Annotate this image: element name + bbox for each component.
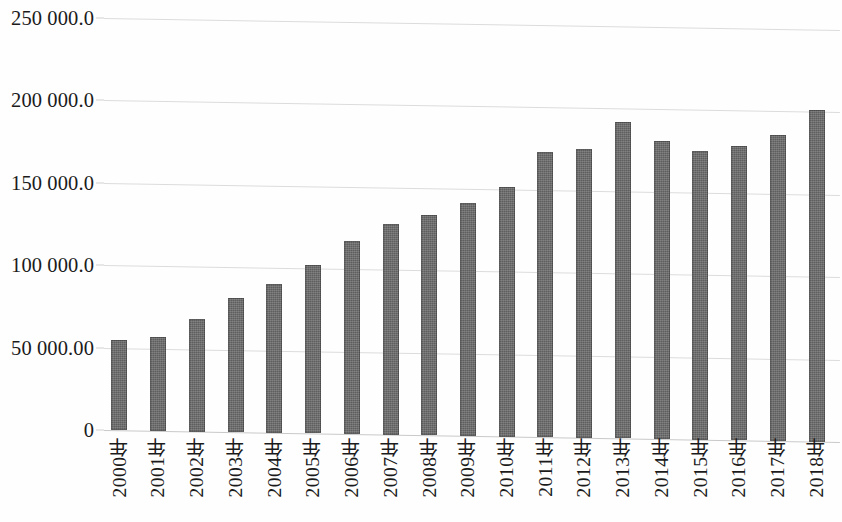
bar — [576, 149, 592, 438]
x-axis-tick-text: 2000年 — [110, 436, 130, 498]
bar — [150, 337, 166, 431]
y-axis-tick-label: 0 — [84, 419, 94, 442]
x-axis-tick-label: 2000年 — [106, 436, 132, 522]
x-axis-tick-label: 2014年 — [649, 436, 675, 522]
x-axis-tick-text: 2005年 — [303, 436, 323, 498]
x-axis-tick-label: 2015年 — [687, 436, 713, 522]
x-axis-tick-label: 2003年 — [223, 436, 249, 522]
x-axis-tick-label: 2002年 — [184, 436, 210, 522]
x-axis: 2000年2001年2002年2003年2004年2005年2006年2007年… — [104, 436, 840, 522]
x-axis-tick-text: 2003年 — [226, 436, 246, 498]
bar — [189, 319, 205, 431]
bar — [809, 110, 825, 442]
x-axis-tick-text: 2009年 — [458, 436, 478, 498]
x-axis-tick-label: 2011年 — [532, 436, 558, 522]
y-axis-tick-mark — [96, 100, 104, 101]
x-axis-tick-text: 2013年 — [613, 436, 633, 498]
x-axis-tick-label: 2008年 — [416, 436, 442, 522]
x-axis-tick-text: 2017年 — [768, 436, 788, 498]
y-axis-tick-label: 250 000.0 — [11, 7, 94, 30]
bar — [305, 265, 321, 433]
x-axis-tick-label: 2017年 — [765, 436, 791, 522]
bar — [692, 151, 708, 440]
x-axis-tick-text: 2015年 — [691, 436, 711, 498]
y-axis-tick-label: 200 000.0 — [11, 89, 94, 112]
bar — [731, 146, 747, 440]
y-axis: 050 000.00100 000.0150 000.0200 000.0250… — [0, 0, 104, 448]
bar — [111, 340, 127, 431]
x-axis-tick-text: 2002年 — [187, 436, 207, 498]
y-axis-tick-label: 100 000.0 — [11, 254, 94, 277]
bar — [421, 215, 437, 435]
y-axis-tick-mark — [96, 18, 104, 19]
bar — [770, 135, 786, 441]
x-axis-tick-text: 2016年 — [729, 436, 749, 498]
plot-area — [104, 18, 840, 430]
y-axis-tick-mark — [96, 182, 104, 183]
x-axis-tick-label: 2009年 — [455, 436, 481, 522]
x-axis-tick-label: 2005年 — [300, 436, 326, 522]
bar-chart: 050 000.00100 000.0150 000.0200 000.0250… — [0, 0, 842, 522]
x-axis-tick-label: 2012年 — [571, 436, 597, 522]
bar — [499, 187, 515, 437]
x-axis-tick-text: 2010年 — [497, 436, 517, 498]
x-axis-tick-label: 2006年 — [339, 436, 365, 522]
x-axis-tick-label: 2013年 — [610, 436, 636, 522]
x-axis-tick-text: 2008年 — [420, 436, 440, 498]
x-axis-tick-text: 2014年 — [652, 436, 672, 498]
x-axis-tick-text: 2018年 — [807, 436, 827, 498]
bar — [344, 241, 360, 434]
x-axis-tick-text: 2004年 — [265, 436, 285, 498]
gridline — [104, 100, 840, 113]
x-axis-tick-text: 2011年 — [536, 436, 556, 497]
bar — [228, 298, 244, 432]
gridline — [104, 183, 840, 196]
gridline — [104, 18, 840, 31]
y-axis-tick-label: 50 000.00 — [11, 336, 94, 359]
x-axis-tick-label: 2004年 — [261, 436, 287, 522]
y-axis-tick-label: 150 000.0 — [11, 171, 94, 194]
bar — [460, 203, 476, 436]
bar — [537, 152, 553, 437]
x-axis-tick-text: 2001年 — [148, 436, 168, 498]
x-axis-tick-label: 2018年 — [804, 436, 830, 522]
x-axis-tick-text: 2006年 — [342, 436, 362, 498]
y-axis-tick-mark — [96, 347, 104, 348]
x-axis-tick-label: 2001年 — [145, 436, 171, 522]
x-axis-tick-label: 2010年 — [494, 436, 520, 522]
bar — [266, 284, 282, 433]
bar — [615, 122, 631, 438]
bar — [654, 141, 670, 439]
x-axis-tick-label: 2007年 — [378, 436, 404, 522]
y-axis-tick-mark — [96, 430, 104, 431]
x-axis-tick-text: 2007年 — [381, 436, 401, 498]
bar — [383, 224, 399, 435]
y-axis-tick-mark — [96, 265, 104, 266]
x-axis-tick-label: 2016年 — [726, 436, 752, 522]
x-axis-tick-text: 2012年 — [574, 436, 594, 498]
